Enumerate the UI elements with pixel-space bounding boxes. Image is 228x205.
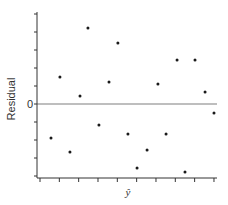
data-point [79,95,82,98]
data-point [176,59,179,62]
data-point [68,151,71,154]
data-point [50,137,53,140]
data-points [50,27,216,174]
data-point [146,149,149,152]
data-point [126,133,129,136]
data-point [97,124,100,127]
data-point [86,27,89,30]
data-point [165,133,168,136]
data-point [194,59,197,62]
x-axis-ticks [40,178,214,182]
data-point [116,41,119,44]
data-point [212,112,215,115]
x-axis-label: ŷ [125,186,131,198]
data-point [204,90,207,93]
data-point [183,171,186,174]
residual-plot: 0 Residual ŷ [0,0,228,205]
data-point [156,83,159,86]
data-point [58,76,61,79]
y-axis-label: Residual [5,78,17,121]
data-point [108,81,111,84]
data-point [136,167,139,170]
y-tick-label-zero: 0 [27,98,33,110]
